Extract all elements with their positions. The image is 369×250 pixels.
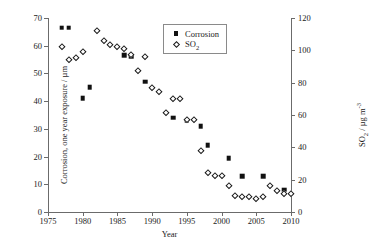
data-point-corrosion <box>226 156 231 161</box>
x-axis-tick-label: 1975 <box>40 217 57 226</box>
y-axis-right-tick <box>291 115 295 116</box>
x-axis-tick-label: 2010 <box>283 217 300 226</box>
data-point-corrosion <box>198 124 203 129</box>
data-point-so2 <box>197 147 205 155</box>
data-point-corrosion <box>122 53 127 58</box>
chart-legend: Corrosion SO2 <box>163 24 227 54</box>
y-axis-left-tick <box>44 129 48 130</box>
legend-item-corrosion: Corrosion <box>169 28 219 39</box>
open-diamond-icon <box>169 42 183 47</box>
data-point-so2 <box>58 43 66 51</box>
y-axis-left-tick-label: 10 <box>34 180 43 189</box>
data-point-so2 <box>211 173 219 181</box>
y-axis-right-tick <box>291 180 295 181</box>
y-axis-left-tick <box>44 157 48 158</box>
data-point-so2 <box>93 27 101 35</box>
data-point-corrosion <box>80 96 85 101</box>
x-axis-title: Year <box>162 229 178 239</box>
x-axis-line <box>48 212 291 213</box>
y-axis-right-tick-label: 40 <box>298 143 307 152</box>
x-axis-tick-label: 1980 <box>74 217 91 226</box>
data-point-corrosion <box>171 115 176 120</box>
y-axis-right-tick <box>291 18 295 19</box>
y-axis-right-tick <box>291 50 295 51</box>
data-point-so2 <box>218 173 226 181</box>
data-point-so2 <box>259 194 267 202</box>
data-point-so2 <box>155 89 163 97</box>
y-axis-right-tick-label: 120 <box>298 14 311 23</box>
data-point-corrosion <box>205 143 210 148</box>
data-point-so2 <box>134 68 142 76</box>
y-axis-left-tick-label: 50 <box>34 69 43 78</box>
y-axis-right-tick-label: 100 <box>298 46 311 55</box>
y-axis-left-tick-label: 30 <box>34 124 43 133</box>
data-point-so2 <box>266 182 274 190</box>
x-axis-tick-label: 1990 <box>144 217 161 226</box>
data-point-corrosion <box>60 25 65 30</box>
data-point-so2 <box>148 84 156 92</box>
y-axis-left-tick <box>44 18 48 19</box>
y-axis-left-tick-label: 40 <box>34 97 43 106</box>
data-point-corrosion <box>240 174 245 179</box>
y-axis-right-tick-label: 60 <box>298 111 307 120</box>
data-point-so2 <box>79 48 87 56</box>
y-axis-right-tick-label: 80 <box>298 78 307 87</box>
x-axis-tick-label: 1995 <box>178 217 195 226</box>
y-axis-left-tick <box>44 101 48 102</box>
y-axis-left-tick-label: 20 <box>34 152 43 161</box>
y-axis-right-tick <box>291 147 295 148</box>
y-axis-left-line <box>48 18 49 212</box>
y-axis-left-tick <box>44 46 48 47</box>
data-point-so2 <box>162 110 170 118</box>
y-axis-left-tick <box>44 184 48 185</box>
data-point-corrosion <box>87 85 92 90</box>
data-point-so2 <box>176 95 184 103</box>
y-axis-left-tick-label: 60 <box>34 41 43 50</box>
y-axis-left-tick-label: 70 <box>34 14 43 23</box>
y-axis-right-title: SO2 / µg m-3 <box>355 103 369 147</box>
y-axis-right-tick-label: 20 <box>298 175 307 184</box>
data-point-so2 <box>141 53 149 61</box>
data-point-corrosion <box>261 174 266 179</box>
x-axis-tick-label: 2005 <box>248 217 265 226</box>
y-axis-left-tick <box>44 73 48 74</box>
data-point-so2 <box>190 116 198 124</box>
legend-item-so2: SO2 <box>169 39 219 50</box>
data-point-so2 <box>287 190 295 198</box>
legend-label-so2: SO2 <box>185 39 199 51</box>
x-axis-tick-label: 2000 <box>213 217 230 226</box>
data-point-corrosion <box>67 25 72 30</box>
legend-label-corrosion: Corrosion <box>185 29 219 39</box>
y-axis-right-tick <box>291 83 295 84</box>
filled-square-icon <box>169 31 183 36</box>
data-point-so2 <box>72 55 80 63</box>
x-axis-tick-label: 1985 <box>109 217 126 226</box>
data-point-so2 <box>121 45 129 53</box>
data-point-corrosion <box>143 79 148 84</box>
data-point-so2 <box>225 182 233 190</box>
